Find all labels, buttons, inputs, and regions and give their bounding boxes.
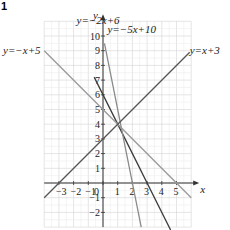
y-tick-label: 4 — [95, 119, 100, 130]
y-tick-label: 6 — [95, 89, 100, 100]
x-tick-label: 5 — [174, 186, 179, 197]
x-tick-label: 1 — [115, 186, 120, 197]
line-chart: xy−3−2−1012345−2−112345678910 y=−2x+6y=−… — [0, 0, 230, 230]
y-tick-label: 8 — [95, 60, 100, 71]
y-tick-label: 9 — [95, 45, 100, 56]
y-tick-label: −2 — [89, 207, 100, 218]
series-annotation: y=−x+5 — [2, 44, 41, 56]
x-axis-arrow-icon — [193, 181, 199, 186]
x-tick-label: −3 — [56, 186, 67, 197]
axes: xy−3−2−1012345−2−112345678910 — [44, 9, 205, 227]
series-line — [104, 43, 141, 227]
y-tick-label: −1 — [89, 192, 100, 203]
series-annotation: y=−5x+10 — [106, 23, 156, 35]
x-tick-label: 3 — [144, 186, 149, 197]
series-labels: y=−2x+6y=−5x+10y=−x+5y=x+3 — [2, 14, 220, 55]
x-tick-label: −2 — [71, 186, 82, 197]
series-annotation: y=x+3 — [189, 44, 221, 56]
y-tick-label: 10 — [90, 31, 100, 42]
y-tick-label: 1 — [95, 163, 100, 174]
y-tick-label: 2 — [95, 148, 100, 159]
x-axis-label: x — [199, 183, 205, 195]
x-tick-label: 4 — [159, 186, 164, 197]
